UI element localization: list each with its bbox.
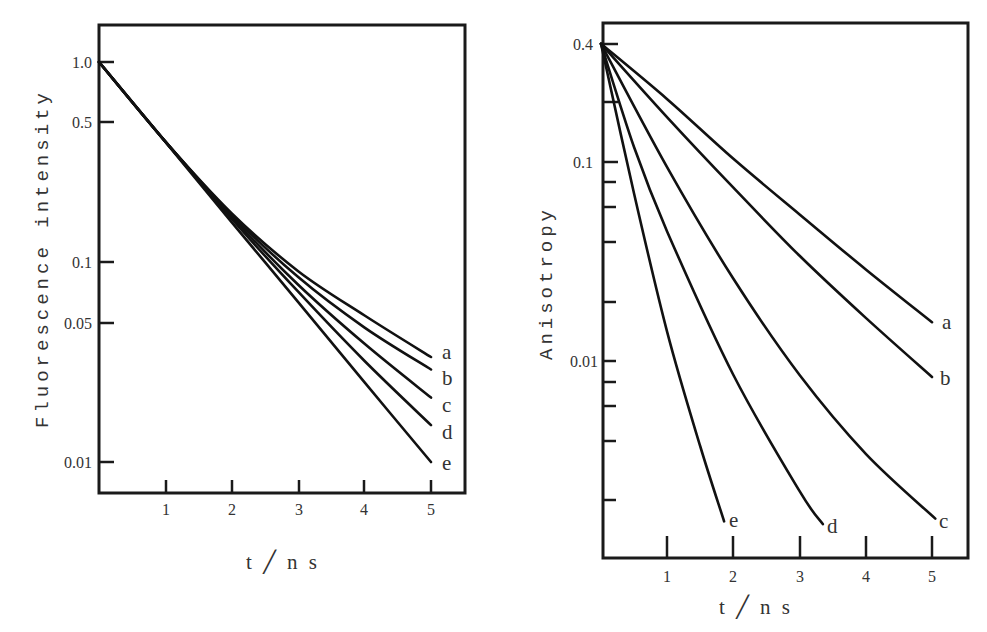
x-tick-label: 1	[162, 501, 170, 518]
curve-c	[99, 62, 431, 398]
fluorescence-chart: 1.0 0.5 0.1 0.05 0.01 1 2 3 4 5 a b c d …	[32, 25, 465, 575]
right-x-axis-label: t ╱ n s	[719, 594, 793, 620]
curve-c	[601, 44, 935, 519]
right-x-ticks	[667, 536, 932, 558]
left-y-axis-label: Fluorescence intensity	[32, 89, 54, 428]
x-tick-label: 2	[228, 501, 236, 518]
left-x-axis-label: t ╱ n s	[246, 549, 320, 575]
right-y-axis-label: Anisotropy	[536, 206, 558, 360]
x-tick-label: 5	[427, 501, 435, 518]
left-x-ticks	[166, 480, 431, 493]
right-x-tick-labels: 1 2 3 4 5	[663, 568, 936, 585]
left-curves	[99, 62, 431, 462]
curve-label-d: d	[827, 514, 838, 538]
y-tick-label: 0.1	[573, 154, 593, 171]
curve-label-b: b	[940, 366, 951, 390]
curve-e	[99, 62, 431, 462]
curve-label-c: c	[442, 393, 451, 417]
left-x-tick-labels: 1 2 3 4 5	[162, 501, 435, 518]
curve-d	[601, 44, 823, 524]
y-tick-label: 0.4	[573, 36, 593, 53]
right-y-tick-labels: 0.4 0.1 0.01	[570, 36, 598, 370]
curve-b	[99, 62, 431, 370]
curve-a	[99, 62, 431, 357]
y-tick-label: 0.5	[72, 114, 92, 131]
curve-label-b: b	[442, 366, 453, 390]
x-tick-label: 3	[295, 501, 303, 518]
y-tick-label: 1.0	[72, 54, 92, 71]
left-y-ticks	[99, 62, 114, 462]
x-tick-label: 4	[360, 501, 368, 518]
y-tick-label: 0.1	[72, 254, 92, 271]
curve-label-e: e	[729, 508, 738, 532]
x-tick-label: 5	[928, 568, 936, 585]
anisotropy-chart: 0.4 0.1 0.01 1 2 3 4 5 a b c d e Anisotr…	[536, 23, 968, 620]
left-curve-labels: a b c d e	[442, 340, 453, 475]
right-curves	[601, 44, 935, 524]
curve-label-c: c	[939, 509, 948, 533]
figure: 1.0 0.5 0.1 0.05 0.01 1 2 3 4 5 a b c d …	[0, 0, 987, 632]
y-tick-label: 0.01	[64, 454, 92, 471]
curve-label-a: a	[942, 310, 952, 334]
x-tick-label: 1	[663, 568, 671, 585]
y-tick-label: 0.05	[64, 315, 92, 332]
y-tick-label: 0.01	[570, 353, 598, 370]
x-tick-label: 2	[729, 568, 737, 585]
curve-e	[601, 44, 724, 522]
curve-label-e: e	[442, 451, 451, 475]
curve-a	[601, 44, 932, 322]
left-y-tick-labels: 1.0 0.5 0.1 0.05 0.01	[64, 54, 92, 471]
x-tick-label: 3	[796, 568, 804, 585]
curve-label-d: d	[442, 420, 453, 444]
curve-label-a: a	[442, 340, 452, 364]
x-tick-label: 4	[862, 568, 870, 585]
